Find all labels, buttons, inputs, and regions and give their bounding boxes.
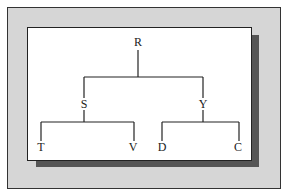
- node-r: R: [134, 36, 142, 48]
- node-s: S: [81, 98, 88, 110]
- node-c: C: [234, 141, 242, 153]
- node-d: D: [158, 141, 167, 153]
- node-v: V: [129, 141, 138, 153]
- node-y: Y: [199, 98, 208, 110]
- node-t: T: [37, 141, 44, 153]
- tree-connectors: [0, 0, 285, 192]
